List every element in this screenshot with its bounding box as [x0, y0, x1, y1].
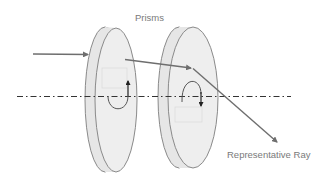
representative-ray-label: Representative Ray [227, 149, 311, 160]
prism-1 [85, 27, 137, 172]
incoming-ray-arrow [33, 54, 88, 55]
prism-2 [158, 27, 218, 168]
prism-1-front-face [95, 28, 137, 172]
prism-2-front-face [168, 27, 218, 168]
prism-diagram: Prisms Representative Ray [0, 0, 328, 179]
prisms-label: Prisms [135, 12, 164, 23]
